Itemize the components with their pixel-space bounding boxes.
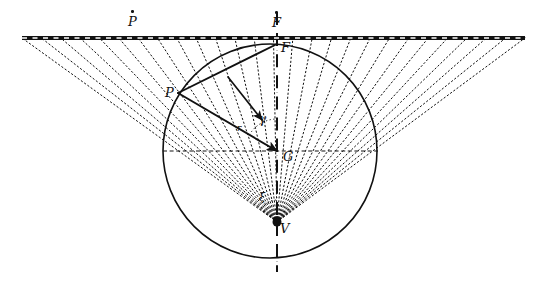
arrow-F-down-right — [228, 77, 262, 120]
fan-ray — [277, 38, 525, 222]
label-F: F — [281, 41, 290, 54]
fan-ray — [277, 38, 448, 222]
fan-ray — [277, 38, 409, 222]
label-V: V — [280, 222, 289, 235]
fan-ray — [80, 38, 277, 222]
fan-ray — [99, 38, 277, 222]
fan-ray — [277, 38, 351, 222]
label-F-dot-text: F — [272, 15, 281, 30]
fan-ray — [277, 38, 467, 222]
label-P: P — [165, 86, 174, 99]
label-r-vector: r — [237, 124, 241, 133]
label-xi: ξ — [259, 192, 265, 203]
label-F-dot: F — [272, 16, 281, 29]
label-P-dot: P — [128, 15, 137, 28]
label-gamma: γ — [259, 113, 266, 125]
label-G: G — [283, 150, 293, 163]
fan-ray — [277, 38, 370, 222]
fan-ray — [277, 38, 486, 222]
fan-ray — [277, 38, 312, 222]
fan-ray — [119, 38, 277, 222]
fan-ray — [277, 38, 428, 222]
label-P-dot-text: P — [128, 14, 137, 29]
fan-ray — [215, 38, 277, 222]
dotted-ray-fan — [22, 38, 525, 222]
dot-accent-icon — [275, 11, 278, 14]
figure-canvas — [0, 0, 539, 281]
ray-F-to-P — [178, 44, 277, 93]
fan-ray — [277, 38, 506, 222]
dot-accent-icon — [131, 10, 134, 13]
figure-root: F F P P G V γ ξ r — [0, 0, 539, 281]
fan-ray — [61, 38, 277, 222]
